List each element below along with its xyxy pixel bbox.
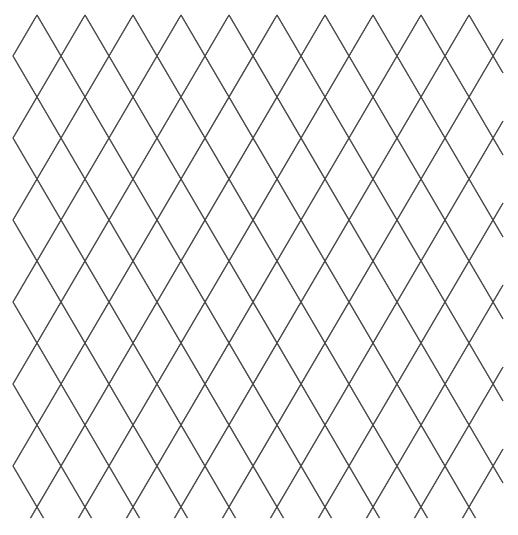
- diamond-lattice-pattern: [0, 0, 518, 535]
- lattice-svg-canvas: [0, 0, 518, 535]
